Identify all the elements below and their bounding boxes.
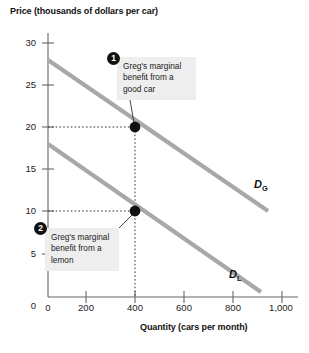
annotation-callout-good-car: Greg's marginal benefit from a good car	[117, 57, 196, 100]
annotation-badge-2: 2	[34, 222, 47, 235]
curve-label-dl-sub: L	[237, 274, 242, 283]
lemon-point	[130, 206, 141, 217]
curve-label-dg-sub: G	[262, 184, 268, 193]
curve-label-dl: DL	[229, 268, 242, 283]
chart-figure: Price (thousands of dollars per car) Qua…	[0, 0, 309, 353]
curve-label-dg: DG	[254, 178, 268, 193]
plot-area	[0, 0, 309, 353]
curve-label-dg-text: D	[254, 178, 262, 190]
good-car-point	[130, 122, 141, 133]
annotation-callout-lemon: Greg's marginal benefit from a lemon	[45, 228, 119, 271]
curve-label-dl-text: D	[229, 268, 237, 280]
callout-2-leader-line	[119, 214, 133, 228]
annotation-badge-1: 1	[107, 52, 120, 65]
